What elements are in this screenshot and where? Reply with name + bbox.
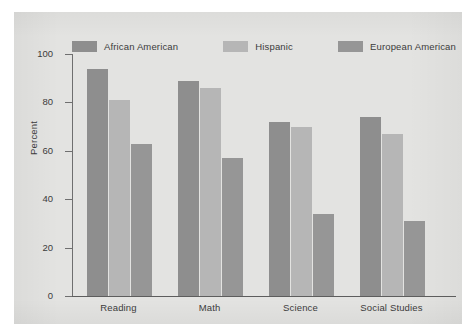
legend-swatch-african-american — [72, 41, 97, 52]
bar — [360, 117, 381, 296]
y-axis-tick-label: 0 — [48, 290, 53, 301]
y-axis-tick: 80 — [65, 102, 72, 103]
legend-swatch-european-american — [338, 41, 363, 52]
y-axis-tick-label: 80 — [42, 96, 53, 107]
x-axis-tick-label: Reading — [100, 302, 136, 313]
bar — [109, 100, 130, 296]
x-axis-tick-label: Social Studies — [360, 302, 422, 313]
legend-swatch-hispanic — [223, 41, 248, 52]
legend-item-european-american: European American — [338, 41, 456, 52]
legend-label-hispanic: Hispanic — [255, 41, 293, 52]
bar — [291, 127, 312, 296]
bar — [178, 81, 199, 296]
bar — [269, 122, 290, 296]
legend-label-european-american: European American — [370, 41, 456, 52]
y-axis-tick-label: 20 — [42, 242, 53, 253]
x-axis-tick-label: Math — [199, 302, 221, 313]
bar — [87, 69, 108, 296]
bar-chart-figure: African American Hispanic European Ameri… — [0, 0, 476, 336]
legend-item-hispanic: Hispanic — [223, 41, 293, 52]
y-axis-title: Percent — [28, 121, 39, 155]
x-axis-tick-label: Science — [283, 302, 318, 313]
y-axis-tick: 0 — [65, 296, 72, 297]
bar — [313, 214, 334, 296]
legend-item-african-american: African American — [72, 41, 178, 52]
legend-label-african-american: African American — [104, 41, 178, 52]
bar — [404, 221, 425, 296]
y-axis-tick: 100 — [65, 54, 72, 55]
y-axis-tick-label: 60 — [42, 145, 53, 156]
y-axis-tick: 20 — [65, 248, 72, 249]
x-axis-line — [72, 296, 456, 297]
plot-area: 020406080100 — [72, 54, 455, 296]
y-axis-tick: 60 — [65, 151, 72, 152]
y-axis-tick-label: 40 — [42, 193, 53, 204]
bar — [382, 134, 403, 296]
bar — [222, 158, 243, 296]
bar — [131, 144, 152, 296]
bar-series-container — [73, 54, 456, 296]
y-axis-tick-label: 100 — [37, 48, 53, 59]
chart-legend: African American Hispanic European Ameri… — [72, 38, 456, 54]
y-axis-tick: 40 — [65, 199, 72, 200]
bar — [200, 88, 221, 296]
